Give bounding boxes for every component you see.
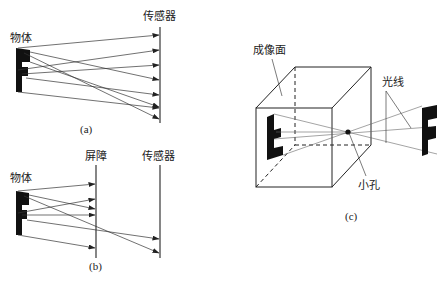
- rays-b: [18, 184, 159, 253]
- object-label-a: 物体: [10, 31, 32, 45]
- pinhole-dot: [345, 129, 350, 134]
- inverted-image-icon: [267, 114, 283, 160]
- caption-b: (b): [89, 260, 102, 273]
- caption-a: (a): [80, 123, 93, 136]
- sensor-label-a: 传感器: [143, 10, 176, 23]
- sensor-label-b: 传感器: [142, 150, 175, 163]
- rays-a: [18, 35, 159, 119]
- image-plane-label: 成像面: [253, 44, 286, 57]
- panel-a: 物体 传感器 (a): [10, 10, 176, 136]
- object-f-icon-c: [422, 105, 437, 156]
- panel-c: 成像面 光线 小孔 (c): [253, 44, 437, 223]
- light-rays-label: 光线: [382, 75, 404, 89]
- pinhole-label: 小孔: [358, 179, 380, 192]
- panel-b: 物体 屏障 传感器 (b): [10, 149, 175, 273]
- rays-c: [274, 106, 437, 155]
- caption-c: (c): [345, 210, 358, 223]
- object-label-b: 物体: [10, 171, 32, 185]
- barrier-label-b: 屏障: [85, 149, 107, 163]
- pinhole-camera-diagram: 物体 传感器 (a) 物体 屏障 传感器: [0, 0, 444, 284]
